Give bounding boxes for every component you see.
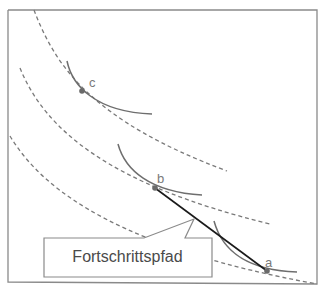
dashed-curve-top [34, 10, 227, 171]
point-label-c: c [89, 76, 96, 89]
solid-curve-a [214, 221, 297, 272]
point-b [152, 185, 158, 191]
callout-label: Fortschrittspfad [44, 238, 211, 276]
dashed-curve-middle [20, 68, 270, 224]
point-c [79, 88, 85, 94]
solid-curve-b [118, 144, 202, 195]
diagram-canvas: c b a Fortschrittspfad [0, 0, 325, 292]
point-label-a: a [265, 256, 272, 269]
solid-curve-c [67, 61, 152, 114]
point-label-b: b [157, 172, 164, 185]
